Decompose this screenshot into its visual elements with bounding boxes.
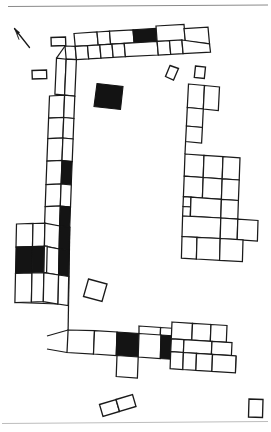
room-R20 <box>220 239 243 262</box>
room-N14 <box>170 40 184 54</box>
room-S3 <box>44 223 59 249</box>
room-W8 <box>62 138 73 162</box>
room-N3 <box>110 30 135 44</box>
room-R17 <box>237 219 258 241</box>
southwest-room-block <box>15 223 70 305</box>
room-R12 <box>183 207 191 217</box>
room-S1 <box>16 224 33 248</box>
room-N8 <box>75 46 89 60</box>
room-E3 <box>210 325 227 343</box>
site-plan-figure <box>0 0 271 432</box>
room-B3 <box>116 332 139 357</box>
room-B2 <box>94 331 118 356</box>
room-W2 <box>65 59 77 96</box>
site-plan-svg <box>0 0 271 432</box>
detached-rect-ne <box>194 66 205 79</box>
room-N12 <box>124 41 158 56</box>
room-R14 <box>221 199 239 219</box>
room-B7 <box>116 356 138 379</box>
room-S13 <box>44 246 47 273</box>
room-R10 <box>221 179 239 201</box>
room-W11 <box>45 184 61 207</box>
room-R19 <box>196 237 220 260</box>
room-R8 <box>183 176 203 198</box>
room-S12 <box>58 275 69 306</box>
room-R18 <box>181 237 197 260</box>
room-W7 <box>47 138 63 161</box>
detached-black-square-center <box>94 84 123 110</box>
room-N10 <box>100 44 113 58</box>
room-E5 <box>183 340 212 355</box>
room-R11 <box>183 197 191 207</box>
room-R3 <box>186 108 203 128</box>
room-S8 <box>59 249 70 277</box>
detached-rect-se-corner <box>249 399 264 418</box>
room-E1 <box>171 322 192 340</box>
room-W12 <box>60 184 71 207</box>
room-R4 <box>186 126 203 143</box>
room-E9 <box>196 353 213 371</box>
room-B4 <box>138 334 161 359</box>
room-N13 <box>157 41 171 55</box>
room-W9 <box>46 161 62 185</box>
room-R7 <box>222 157 240 180</box>
room-W10 <box>61 161 72 186</box>
room-R2 <box>203 86 219 111</box>
room-E7 <box>170 352 183 370</box>
room-R1 <box>187 84 204 109</box>
room-S9 <box>15 273 32 303</box>
room-N11 <box>112 43 125 57</box>
room-B1 <box>67 330 95 354</box>
room-N4 <box>133 28 157 42</box>
room-S10 <box>31 273 44 302</box>
room-W5 <box>48 118 64 139</box>
room-E8 <box>183 353 197 371</box>
room-R9 <box>202 178 222 200</box>
room-W6 <box>63 118 74 140</box>
room-E10 <box>212 354 236 373</box>
room-N2 <box>97 31 111 45</box>
room-R6 <box>203 155 223 179</box>
room-N7 <box>65 46 76 60</box>
room-R5 <box>184 154 204 178</box>
room-R15 <box>182 216 221 239</box>
room-W14 <box>60 206 71 227</box>
room-E4 <box>171 339 184 353</box>
room-S11 <box>43 273 58 304</box>
room-E6 <box>211 341 232 355</box>
room-S2 <box>33 223 45 246</box>
east-range-north-link <box>185 142 186 155</box>
room-W4 <box>64 95 75 118</box>
room-E2 <box>192 323 211 341</box>
detached-rect-nw-lower <box>32 70 47 79</box>
room-R16 <box>220 218 238 240</box>
room-N1 <box>74 32 98 46</box>
room-N9 <box>88 45 102 59</box>
room-S6 <box>32 246 44 273</box>
room-R13 <box>190 197 221 218</box>
room-W3 <box>49 95 65 118</box>
room-N5 <box>156 24 185 41</box>
room-S5 <box>16 247 33 274</box>
detached-square-midleft <box>84 279 108 302</box>
detached-rect-nw-upper <box>51 37 66 46</box>
southeast-room-block <box>170 322 236 373</box>
room-S4 <box>59 226 70 251</box>
